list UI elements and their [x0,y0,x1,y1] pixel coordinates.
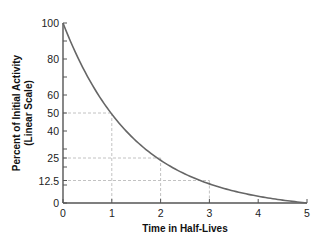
half-life-decay-chart: 100806050402512.50 012345 Time in Half-L… [0,0,322,244]
x-tick-label: 3 [206,207,212,219]
y-tick-label: 100 [41,17,59,29]
reference-guide-lines [63,113,209,203]
y-tick-label: 80 [47,53,59,65]
x-axis-ticks: 012345 [60,199,310,219]
y-tick-label: 60 [47,89,59,101]
x-tick-label: 5 [304,207,310,219]
y-tick-label: 50 [47,107,59,119]
x-tick-label: 0 [60,207,66,219]
x-tick-label: 4 [255,207,261,219]
y-tick-label: 25 [47,152,59,164]
y-axis-title-line1: Percent of Initial Activity [11,54,22,171]
x-axis-title: Time in Half-Lives [142,223,228,234]
y-tick-label: 12.5 [39,175,60,187]
x-tick-label: 2 [158,207,164,219]
y-axis-title-line2: (Linear Scale) [23,80,34,146]
y-tick-label: 0 [53,197,59,209]
x-tick-label: 1 [109,207,115,219]
y-axis-title: Percent of Initial Activity (Linear Scal… [11,54,34,171]
y-tick-label: 40 [47,125,59,137]
